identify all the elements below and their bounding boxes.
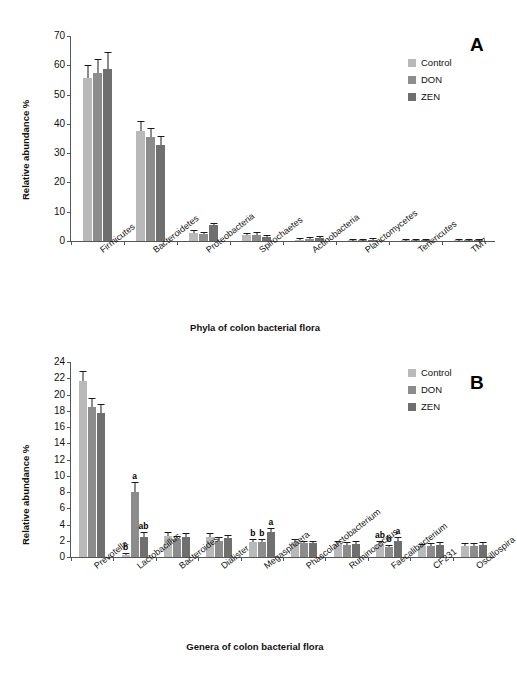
y-tick-label: 4 [29, 520, 65, 530]
error-bar [482, 543, 483, 545]
bar-slot [156, 36, 165, 241]
bar-slot: b [122, 362, 130, 557]
error-bar [464, 544, 465, 546]
panel-b-legend-item-zen: ZEN [408, 401, 452, 412]
bar-slot [334, 362, 342, 557]
bar-group [283, 362, 325, 557]
bar [427, 546, 435, 557]
y-tick-mark [67, 427, 71, 428]
bar-slot [215, 362, 223, 557]
error-bar [299, 239, 300, 240]
error-bar [92, 399, 93, 406]
bar-slot [164, 362, 172, 557]
bar-group-inner [164, 362, 190, 557]
panel-a: A Relative abundance % 010203040506070 F… [0, 0, 510, 345]
error-bar-cap [306, 237, 313, 238]
bar-group: bba [241, 362, 283, 557]
y-tick-label: 0 [29, 236, 65, 246]
error-bar [346, 543, 347, 545]
panel-b-legend-item-don: DON [408, 384, 452, 395]
bar-slot [79, 362, 87, 557]
panel-a-legend-item-zen: ZEN [408, 91, 452, 102]
bar-group [177, 36, 230, 241]
error-bar-cap [412, 239, 419, 240]
error-bar [473, 544, 474, 546]
error-bar-cap [94, 59, 101, 60]
error-bar-cap [352, 541, 359, 542]
error-bar-cap [225, 535, 232, 536]
legend-swatch-icon [408, 386, 416, 394]
y-tick-label: 70 [29, 31, 65, 41]
bar-group: baab [113, 362, 155, 557]
y-tick-mark [67, 476, 71, 477]
error-bar [101, 405, 102, 413]
error-bar-cap [253, 232, 260, 233]
error-bar [270, 529, 271, 531]
error-bar [319, 237, 320, 238]
y-tick-mark [67, 153, 71, 154]
y-tick-mark [67, 443, 71, 444]
bar-group-inner [136, 36, 165, 241]
y-tick-label: 8 [29, 487, 65, 497]
bar [258, 542, 266, 557]
legend-label: Control [421, 57, 452, 68]
bar-slot [474, 36, 483, 241]
y-tick-mark [67, 36, 71, 37]
bar-slot [189, 36, 198, 241]
legend-label: ZEN [421, 91, 440, 102]
bar [454, 240, 463, 241]
bar-slot [206, 362, 214, 557]
bar-slot [224, 362, 232, 557]
y-tick-mark [67, 460, 71, 461]
y-tick-mark [67, 411, 71, 412]
bar-slot [136, 36, 145, 241]
y-tick-label: 0 [29, 552, 65, 562]
error-bar [213, 224, 214, 225]
error-bar [388, 546, 389, 548]
error-bar [193, 231, 194, 232]
y-tick-mark [67, 541, 71, 542]
significance-letter: b [250, 528, 255, 538]
bar-slot: a [131, 362, 139, 557]
y-tick-label: 6 [29, 503, 65, 513]
x-tick-mark [230, 241, 231, 245]
bar [401, 240, 410, 241]
error-bar [150, 129, 151, 137]
significance-letter: a [132, 471, 137, 481]
bar-group-inner [242, 36, 271, 241]
bar-slot: b [258, 362, 266, 557]
bar-slot [262, 36, 271, 241]
bar-group-inner [291, 362, 317, 557]
significance-letter: ab [139, 521, 149, 531]
bar [385, 547, 393, 557]
error-bar-cap [359, 239, 366, 240]
bar-group [230, 36, 283, 241]
error-bar [261, 540, 262, 542]
error-bar-cap [84, 65, 91, 66]
bar-slot: a [267, 362, 275, 557]
bar [464, 240, 473, 241]
legend-label: DON [421, 74, 442, 85]
x-tick-mark [283, 241, 284, 245]
error-bar [160, 137, 161, 145]
error-bar [313, 542, 314, 544]
y-tick-label: 60 [29, 60, 65, 70]
x-tick-mark [71, 241, 72, 245]
bar [470, 546, 478, 557]
bar [305, 239, 314, 241]
bar [97, 413, 105, 557]
bar-group-inner [295, 36, 324, 241]
x-tick-mark [113, 557, 114, 561]
error-bar-cap [140, 532, 147, 533]
bar-group-inner [79, 362, 105, 557]
error-bar-cap [437, 542, 444, 543]
error-bar [83, 372, 84, 381]
legend-swatch-icon [408, 59, 416, 67]
x-tick-mark [198, 557, 199, 561]
y-tick-mark [67, 182, 71, 183]
error-bar [266, 236, 267, 237]
error-bar [134, 483, 135, 492]
bar-slot [291, 362, 299, 557]
bar [131, 492, 139, 557]
bar-group [71, 362, 113, 557]
